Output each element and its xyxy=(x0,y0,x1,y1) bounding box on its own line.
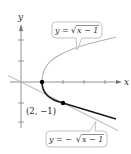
lower-callout: y = − √ x − 1 xyxy=(46,121,107,147)
upper-callout-left: y = xyxy=(54,26,69,35)
lower-callout-left: y = − xyxy=(48,135,72,144)
lower-callout-rad: x − 1 xyxy=(82,135,103,144)
vertex-point xyxy=(40,80,44,84)
y-axis-label: y xyxy=(17,12,24,22)
point-label: (2, −1) xyxy=(26,106,56,116)
upper-callout-rad: x − 1 xyxy=(77,26,98,35)
point-2-neg1 xyxy=(61,101,65,105)
x-axis-arrow-icon xyxy=(116,80,122,84)
upper-callout: y = √ x − 1 xyxy=(52,22,102,50)
x-axis-label: x xyxy=(124,77,129,87)
graph: x y (2, −1) y = √ x − 1 y = − √ x − 1 xyxy=(0,0,131,154)
y-axis-arrow-icon xyxy=(19,24,23,31)
